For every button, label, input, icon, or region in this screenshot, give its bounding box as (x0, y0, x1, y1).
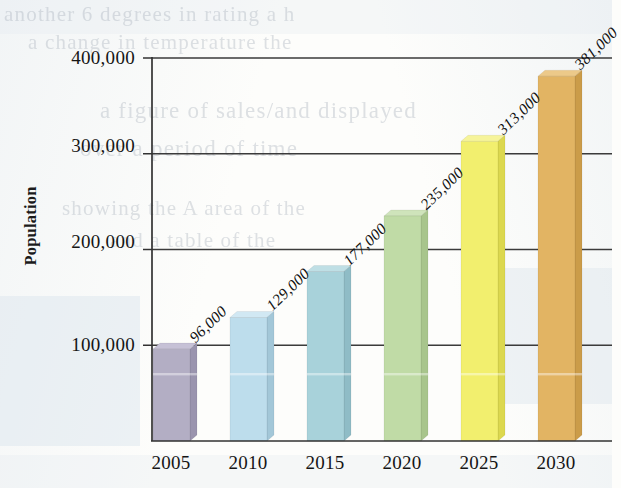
bar-2010 (230, 311, 274, 441)
bar-2005 (153, 343, 197, 441)
bar-2030 (538, 70, 582, 441)
x-axis-tick-2015: 2015 (285, 452, 365, 474)
bar-2020 (384, 210, 428, 441)
y-axis-tick-200000: 200,000 (35, 231, 135, 253)
y-axis-tick-300000: 300,000 (35, 135, 135, 157)
y-axis-title: Population (21, 171, 41, 281)
x-axis-tick-2030: 2030 (516, 452, 596, 474)
y-axis-tick-100000: 100,000 (35, 334, 135, 356)
x-axis-tick-2020: 2020 (362, 452, 442, 474)
x-axis-tick-2025: 2025 (439, 452, 519, 474)
bar-2025 (461, 135, 505, 441)
x-axis-tick-2010: 2010 (208, 452, 288, 474)
x-axis-tick-2005: 2005 (131, 452, 211, 474)
y-axis-tick-400000: 400,000 (35, 47, 135, 69)
bar-2015 (307, 266, 351, 441)
